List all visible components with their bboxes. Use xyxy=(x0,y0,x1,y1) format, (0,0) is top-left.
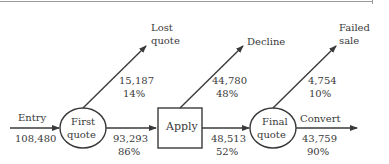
entry-value: 108,480 xyxy=(15,133,56,145)
lost-quote-line1: Lost xyxy=(151,22,173,34)
to-apply-pct: 86% xyxy=(118,146,140,158)
convert-label: Convert xyxy=(300,113,340,125)
first-quote-line2: quote xyxy=(67,129,96,141)
failed-sale-line2: sale xyxy=(339,35,359,47)
entry-label: Entry xyxy=(18,112,46,124)
lost-quote-line2: quote xyxy=(151,35,180,47)
decline-pct: 48% xyxy=(216,88,238,100)
decline-label: Decline xyxy=(247,36,285,48)
apply-label: Apply xyxy=(166,121,198,133)
first-quote-node xyxy=(60,108,106,148)
decline-value: 44,780 xyxy=(212,75,247,87)
final-quote-line2: quote xyxy=(257,129,286,141)
lost-quote-value: 15,187 xyxy=(119,75,154,87)
convert-value: 43,759 xyxy=(302,133,337,145)
failed-sale-value: 4,754 xyxy=(308,75,337,87)
lost-quote-pct: 14% xyxy=(123,88,145,100)
failed-sale-line1: Failed xyxy=(339,22,370,34)
to-apply-value: 93,293 xyxy=(113,133,148,145)
to-final-value: 48,513 xyxy=(211,133,246,145)
final-quote-line1: Final xyxy=(262,116,288,128)
failed-sale-pct: 10% xyxy=(309,88,331,100)
first-quote-line1: First xyxy=(71,116,95,128)
funnel-diagram: Entry 108,480 First quote Lost quote 15,… xyxy=(0,0,389,164)
final-quote-node xyxy=(250,108,296,148)
convert-pct: 90% xyxy=(307,146,329,158)
to-final-pct: 52% xyxy=(216,146,238,158)
